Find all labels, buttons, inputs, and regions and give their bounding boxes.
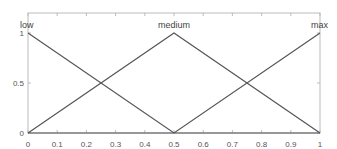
label-low: low xyxy=(20,20,34,30)
x-tick-label: 1 xyxy=(318,140,323,149)
axes-box xyxy=(28,13,320,133)
x-tick-label: 0.2 xyxy=(81,140,93,149)
membership-labels: lowmediummax xyxy=(20,20,328,30)
x-tick-label: 0.8 xyxy=(256,140,268,149)
x-tick-label: 0.1 xyxy=(52,140,64,149)
series-line-max xyxy=(28,33,320,133)
series-line-medium xyxy=(28,33,320,133)
label-max: max xyxy=(311,20,329,30)
x-tick-label: 0 xyxy=(26,140,31,149)
x-tick-label: 0.9 xyxy=(285,140,297,149)
label-medium: medium xyxy=(158,20,190,30)
y-tick-label: 0 xyxy=(20,129,25,138)
y-tick-label: 0.5 xyxy=(13,79,25,88)
y-axis-ticks: 00.51 xyxy=(13,29,320,138)
plot-frame xyxy=(28,13,320,133)
x-tick-label: 0.6 xyxy=(198,140,210,149)
x-tick-label: 0.3 xyxy=(110,140,122,149)
y-tick-label: 1 xyxy=(20,29,25,38)
x-tick-label: 0.4 xyxy=(139,140,151,149)
x-tick-label: 0.7 xyxy=(227,140,239,149)
membership-function-chart: 00.10.20.30.40.50.60.70.80.91 00.51 lowm… xyxy=(0,0,337,149)
x-tick-label: 0.5 xyxy=(168,140,180,149)
series-line-low xyxy=(28,33,320,133)
series-lines xyxy=(28,33,320,133)
